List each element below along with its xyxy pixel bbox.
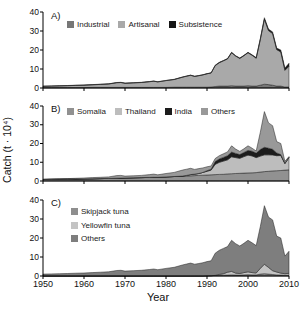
legend-swatch-thailand xyxy=(115,108,122,115)
legend-item-yellowfin-tuna: Yellowfin tuna xyxy=(71,221,130,230)
y-tick-label: 10 xyxy=(13,65,39,74)
x-tick-label: 1950 xyxy=(28,280,58,289)
y-tick-label: 30 xyxy=(13,27,39,36)
y-tick-label: 10 xyxy=(13,253,39,262)
panel-label-b: B) xyxy=(51,104,61,114)
legend-swatch-subsistence xyxy=(169,21,176,28)
panel-label-a: A) xyxy=(51,11,61,21)
legend-panel-c: Skipjack tunaYellowfin tunaOthers xyxy=(71,207,130,243)
y-tick-label: 40 xyxy=(13,8,39,17)
legend-panel-b: SomaliaThailandIndiaOthers xyxy=(67,107,244,116)
x-tick-label: 2010 xyxy=(274,280,304,289)
legend-label-skipjack-tuna: Skipjack tuna xyxy=(81,207,129,216)
legend-label-industrial: Industrial xyxy=(77,20,109,29)
legend-item-subsistence: Subsistence xyxy=(169,20,223,29)
y-tick-label: 10 xyxy=(13,158,39,167)
y-tick-label: 30 xyxy=(13,215,39,224)
x-tick-label: 1980 xyxy=(151,280,181,289)
legend-item-somalia: Somalia xyxy=(67,107,106,116)
legend-label-thailand: Thailand xyxy=(125,107,156,116)
y-tick-label: 0 xyxy=(13,84,39,93)
legend-swatch-others xyxy=(71,235,78,242)
legend-item-india: India xyxy=(165,107,192,116)
y-tick-label: 20 xyxy=(13,139,39,148)
legend-item-skipjack-tuna: Skipjack tuna xyxy=(71,207,129,216)
legend-swatch-somalia xyxy=(67,108,74,115)
y-tick-label: 40 xyxy=(13,196,39,205)
legend-item-others: Others xyxy=(201,107,235,116)
legend-label-yellowfin-tuna: Yellowfin tuna xyxy=(81,221,130,230)
legend-swatch-artisanal xyxy=(118,21,125,28)
y-tick-label: 20 xyxy=(13,46,39,55)
x-tick-label: 1970 xyxy=(110,280,140,289)
y-axis-title: Catch (t · 10⁴) xyxy=(1,90,15,210)
legend-item-artisanal: Artisanal xyxy=(118,20,159,29)
x-tick-label: 1990 xyxy=(192,280,222,289)
x-tick-label: 1960 xyxy=(69,280,99,289)
legend-label-artisanal: Artisanal xyxy=(128,20,159,29)
legend-item-industrial: Industrial xyxy=(67,20,109,29)
legend-swatch-others xyxy=(201,108,208,115)
legend-swatch-industrial xyxy=(67,21,74,28)
x-axis-title: Year xyxy=(98,291,218,303)
legend-item-thailand: Thailand xyxy=(115,107,156,116)
legend-label-subsistence: Subsistence xyxy=(179,20,223,29)
y-tick-label: 30 xyxy=(13,120,39,129)
legend-label-others: Others xyxy=(81,234,105,243)
figure-canvas: 0102030400102030400102030401950196019701… xyxy=(0,0,305,309)
legend-label-somalia: Somalia xyxy=(77,107,106,116)
legend-swatch-skipjack-tuna xyxy=(71,208,78,215)
y-tick-label: 20 xyxy=(13,234,39,243)
y-tick-label: 0 xyxy=(13,177,39,186)
legend-item-others: Others xyxy=(71,234,105,243)
panel-label-c: C) xyxy=(51,198,61,208)
legend-swatch-india xyxy=(165,108,172,115)
legend-label-others: Others xyxy=(211,107,235,116)
legend-panel-a: IndustrialArtisanalSubsistence xyxy=(67,20,231,29)
legend-label-india: India xyxy=(175,107,192,116)
y-tick-label: 40 xyxy=(13,102,39,111)
legend-swatch-yellowfin-tuna xyxy=(71,222,78,229)
x-tick-label: 2000 xyxy=(233,280,263,289)
area-artisanal xyxy=(43,19,289,87)
stacked-area-figure xyxy=(0,0,305,309)
